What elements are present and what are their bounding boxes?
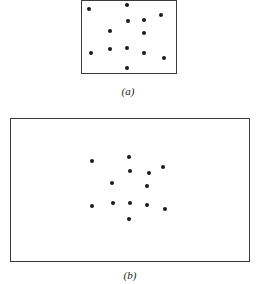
dot-b-12 [163, 207, 167, 211]
dot-b-1 [90, 159, 94, 163]
panel-b-caption: (b) [124, 269, 137, 281]
panel-a-frame [81, 0, 177, 74]
dot-b-9 [111, 201, 115, 205]
dot-a-13 [125, 66, 129, 70]
dot-b-8 [90, 204, 94, 208]
dot-a-12 [162, 56, 166, 60]
dot-b-10 [128, 201, 132, 205]
dot-b-4 [147, 171, 151, 175]
dot-a-11 [142, 51, 146, 55]
dot-a-10 [125, 46, 129, 50]
dot-a-6 [108, 29, 112, 33]
dot-b-2 [127, 155, 131, 159]
panel-a-caption: (a) [122, 85, 135, 97]
dot-a-3 [159, 13, 163, 17]
dot-a-9 [108, 47, 112, 51]
dot-a-1 [87, 7, 91, 11]
dot-b-11 [145, 203, 149, 207]
dot-a-4 [126, 19, 130, 23]
panel-b-frame [10, 118, 250, 262]
dot-a-5 [142, 18, 146, 22]
dot-a-2 [125, 3, 129, 7]
dot-b-5 [161, 165, 165, 169]
dot-a-7 [142, 31, 146, 35]
dot-b-7 [145, 184, 149, 188]
dot-b-3 [128, 169, 132, 173]
dot-b-13 [127, 217, 131, 221]
dot-a-8 [89, 51, 93, 55]
dot-b-6 [110, 181, 114, 185]
